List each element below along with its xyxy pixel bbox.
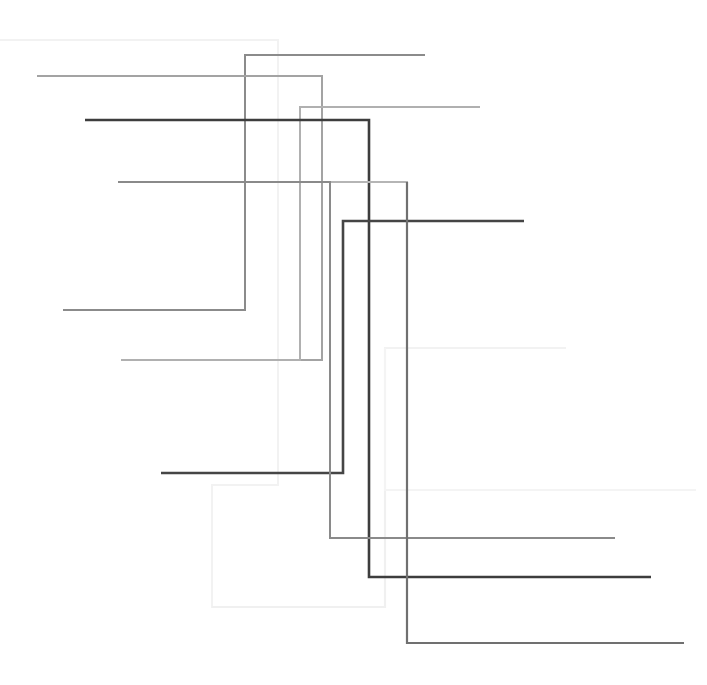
step-polyline-figure <box>0 0 707 685</box>
canvas-background <box>0 0 707 685</box>
artwork-canvas <box>0 0 707 685</box>
